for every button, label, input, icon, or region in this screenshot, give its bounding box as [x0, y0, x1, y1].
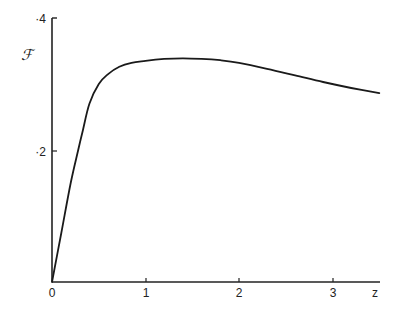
chart: ·4 ·2 ℱ 0 1 2 3 z	[0, 0, 403, 314]
y-tick-label-0.4: ·4	[35, 12, 46, 26]
x-axis-label: z	[372, 286, 378, 300]
y-axis-label: ℱ	[21, 46, 36, 64]
x-tick-label-1: 1	[143, 286, 150, 300]
data-curve	[52, 58, 379, 282]
y-tick-label-0.2: ·2	[35, 145, 46, 159]
x-tick-label-0: 0	[49, 286, 56, 300]
x-tick-label-2: 2	[236, 286, 243, 300]
x-tick-label-3: 3	[330, 286, 337, 300]
